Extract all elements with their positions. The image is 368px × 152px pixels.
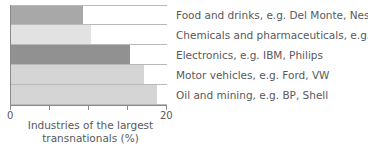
bar bbox=[11, 45, 130, 64]
legend-item: Oil and mining, e.g. BP, Shell bbox=[176, 85, 366, 105]
bar-chart: 0 20 Industries of the largest transnati… bbox=[0, 0, 368, 152]
plot-area: 0 20 bbox=[10, 5, 167, 105]
bar-row bbox=[11, 25, 167, 45]
bar-row bbox=[11, 85, 167, 105]
category-legend: Food and drinks, e.g. Del Monte, NestléC… bbox=[176, 5, 366, 105]
axis-caption-line-2: transnationals (%) bbox=[8, 132, 173, 145]
bar bbox=[11, 65, 144, 84]
legend-item: Electronics, e.g. IBM, Philips bbox=[176, 45, 366, 65]
legend-item: Food and drinks, e.g. Del Monte, Nestlé bbox=[176, 5, 366, 25]
bar bbox=[11, 85, 157, 104]
bar bbox=[11, 6, 83, 24]
bar-rows bbox=[11, 5, 167, 105]
legend-item: Motor vehicles, e.g. Ford, VW bbox=[176, 65, 366, 85]
bar-row bbox=[11, 65, 167, 85]
bar-row bbox=[11, 45, 167, 65]
bar-row bbox=[11, 5, 167, 25]
axis-caption: Industries of the largest transnationals… bbox=[8, 119, 173, 145]
bar bbox=[11, 25, 91, 44]
legend-item: Chemicals and pharmaceuticals, e.g. ICI bbox=[176, 25, 366, 45]
axis-caption-line-1: Industries of the largest bbox=[8, 119, 173, 132]
